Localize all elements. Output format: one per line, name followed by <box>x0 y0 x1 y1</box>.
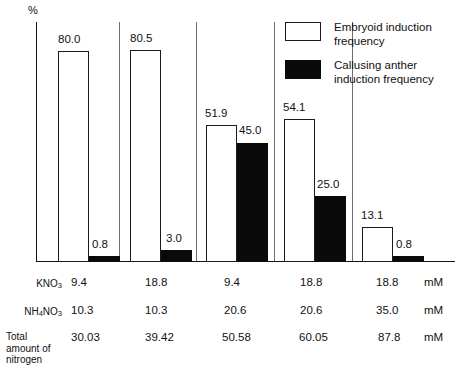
bar-value-embryoid-5: 13.1 <box>361 209 383 221</box>
table-cell-total-5: 87.8 <box>378 331 400 343</box>
bar-value-callusing-4: 25.0 <box>317 178 339 190</box>
table-row-label-total-line3: nitrogen <box>6 354 68 366</box>
bar-value-callusing-3: 45.0 <box>239 124 261 136</box>
table-cell-kno3-2: 18.8 <box>145 276 167 288</box>
legend-label-embryoid: Embryoid induction frequency <box>334 21 432 48</box>
bar-value-embryoid-1: 80.0 <box>58 33 80 45</box>
table-cell-nh4no3-3: 20.6 <box>224 304 246 316</box>
table-cell-total-4: 60.05 <box>299 331 328 343</box>
table-cell-kno3-5: 18.8 <box>376 276 398 288</box>
bar-callusing-3 <box>237 143 268 262</box>
y-axis-line <box>36 22 37 262</box>
bar-callusing-5 <box>393 256 424 262</box>
bar-value-callusing-1: 0.8 <box>92 238 108 250</box>
table-unit-total: mM <box>424 331 443 343</box>
table-cell-nh4no3-4: 20.6 <box>300 304 322 316</box>
legend-label-callusing-line1: Callusing anther <box>334 59 434 73</box>
table-cell-nh4no3-2: 10.3 <box>145 304 167 316</box>
bar-value-callusing-5: 0.8 <box>396 238 412 250</box>
legend-swatch-embryoid <box>285 22 321 41</box>
table-cell-nh4no3-5: 35.0 <box>376 304 398 316</box>
group-separator-4 <box>352 22 353 261</box>
table-cell-total-1: 30.03 <box>71 331 100 343</box>
bar-value-embryoid-3: 51.9 <box>205 107 227 119</box>
group-separator-3 <box>274 22 275 261</box>
y-axis-unit-label: % <box>28 4 38 16</box>
legend-label-embryoid-line1: Embryoid induction <box>334 21 432 35</box>
legend-item-callusing: Callusing anther induction frequency <box>285 59 434 86</box>
bar-embryoid-1 <box>58 51 89 262</box>
bar-embryoid-4 <box>284 119 315 262</box>
bar-embryoid-5 <box>362 227 393 262</box>
bar-embryoid-2 <box>130 50 161 262</box>
bar-callusing-1 <box>89 256 120 262</box>
bar-value-callusing-2: 3.0 <box>166 232 182 244</box>
table-row-label-nh4no3-sub2: 3 <box>58 309 62 318</box>
bar-callusing-2 <box>161 250 192 262</box>
table-row-label-nh4no3-main2: NO <box>43 306 58 317</box>
table-cell-kno3-3: 9.4 <box>224 276 240 288</box>
table-row-label-total-line2: amount of <box>6 343 68 355</box>
table-unit-nh4no3: mM <box>424 304 443 316</box>
table-row-label-kno3-sub: 3 <box>58 281 62 290</box>
bar-value-embryoid-2: 80.5 <box>130 32 152 44</box>
table-row-label-nh4no3-main: NH <box>24 306 38 317</box>
legend-item-embryoid: Embryoid induction frequency <box>285 21 432 48</box>
table-row-label-total-line1: Total <box>6 331 68 343</box>
legend-swatch-callusing <box>285 60 321 79</box>
group-separator-1 <box>119 22 120 261</box>
table-row-label-total-nitrogen: Total amount of nitrogen <box>6 331 68 366</box>
table-row-label-kno3-main: KNO <box>36 278 58 289</box>
legend-label-callusing-line2: induction frequency <box>334 73 434 87</box>
table-unit-kno3: mM <box>424 276 443 288</box>
bar-value-embryoid-4: 54.1 <box>283 101 305 113</box>
group-separator-2 <box>196 22 197 261</box>
bar-callusing-4 <box>315 196 346 262</box>
table-cell-kno3-1: 9.4 <box>71 276 87 288</box>
table-cell-nh4no3-1: 10.3 <box>71 304 93 316</box>
table-cell-total-2: 39.42 <box>145 331 174 343</box>
bar-embryoid-3 <box>206 125 237 262</box>
table-row-label-nh4no3: NH4NO3 <box>0 306 62 320</box>
legend-label-embryoid-line2: frequency <box>334 35 432 49</box>
table-cell-kno3-4: 18.8 <box>300 276 322 288</box>
legend-label-callusing: Callusing anther induction frequency <box>334 59 434 86</box>
table-cell-total-3: 50.58 <box>222 331 251 343</box>
table-row-label-kno3: KNO3 <box>0 278 62 292</box>
